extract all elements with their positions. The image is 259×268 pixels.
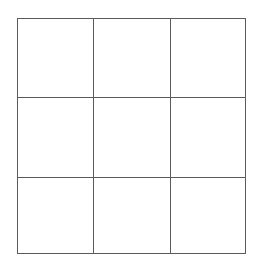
tic-tac-toe-grid <box>17 18 246 254</box>
grid-cell-r3-c2[interactable] <box>94 178 169 252</box>
grid-cell-r2-c2[interactable] <box>94 98 169 176</box>
grid-cell-r1-c2[interactable] <box>94 19 169 96</box>
grid-cell-r1-c1[interactable] <box>18 19 92 96</box>
grid-cell-r2-c1[interactable] <box>18 98 92 176</box>
grid-cell-r1-c3[interactable] <box>171 19 245 96</box>
grid-cell-r3-c1[interactable] <box>18 178 92 252</box>
grid-cell-r2-c3[interactable] <box>171 98 245 176</box>
grid-cell-r3-c3[interactable] <box>171 178 245 252</box>
